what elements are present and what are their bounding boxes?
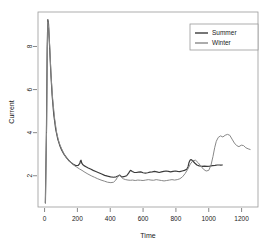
legend-label-winter: Winter: [212, 39, 232, 46]
y-tick-label: 6: [26, 87, 33, 91]
x-tick-label: 600: [138, 215, 149, 222]
x-tick-label: 1200: [234, 215, 249, 222]
y-axis-ticks: 2468: [26, 44, 37, 177]
y-tick-label: 2: [26, 174, 33, 178]
x-tick-label: 400: [105, 215, 116, 222]
legend-label-summer: Summer: [212, 29, 237, 36]
line-chart: 020040060080010001200 2468 Time Current …: [0, 0, 268, 250]
x-tick-label: 200: [72, 215, 83, 222]
y-tick-label: 8: [26, 44, 33, 48]
x-axis-ticks: 020040060080010001200: [43, 208, 249, 222]
x-axis-label: Time: [140, 232, 155, 239]
chart-container: 020040060080010001200 2468 Time Current …: [0, 0, 268, 250]
x-tick-label: 800: [170, 215, 181, 222]
y-axis-label: Current: [8, 100, 15, 123]
y-tick-label: 4: [26, 130, 33, 134]
x-tick-label: 0: [43, 215, 47, 222]
chart-legend: SummerWinter: [190, 24, 258, 50]
x-tick-label: 1000: [202, 215, 217, 222]
